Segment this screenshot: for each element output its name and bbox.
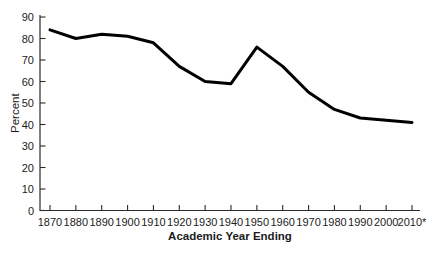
x-tick-label: 1950	[245, 216, 269, 228]
y-tick-label: 40	[22, 119, 34, 131]
x-tick-label: 1980	[322, 216, 346, 228]
data-line	[50, 30, 412, 123]
x-axis-title: Academic Year Ending	[44, 230, 416, 242]
y-tick-label: 90	[22, 11, 34, 23]
x-tick-label: 1880	[64, 216, 88, 228]
y-tick-label: 0	[28, 205, 34, 217]
x-tick-label: 1930	[193, 216, 217, 228]
y-tick-label: 10	[22, 183, 34, 195]
y-tick-label: 50	[22, 97, 34, 109]
x-tick-label: 1900	[115, 216, 139, 228]
plot-area: 0102030405060708090187018801890190019101…	[0, 0, 428, 254]
y-axis-title: Percent	[9, 93, 21, 133]
x-tick-label: 1960	[270, 216, 294, 228]
x-tick-label: 1970	[296, 216, 320, 228]
x-tick-label: 1890	[89, 216, 113, 228]
y-tick-label: 30	[22, 140, 34, 152]
x-tick-label: 1870	[38, 216, 62, 228]
y-tick-label: 20	[22, 162, 34, 174]
axis-lines	[40, 15, 420, 211]
x-tick-label: 1940	[219, 216, 243, 228]
x-tick-label: 1920	[167, 216, 191, 228]
y-tick-label: 80	[22, 33, 34, 45]
line-chart-figure: 0102030405060708090187018801890190019101…	[0, 0, 428, 254]
x-tick-label: 1910	[141, 216, 165, 228]
y-tick-label: 60	[22, 76, 34, 88]
y-tick-label: 70	[22, 54, 34, 66]
x-tick-label: 2010*	[398, 216, 427, 228]
x-tick-label: 1990	[348, 216, 372, 228]
x-tick-label: 2000	[374, 216, 398, 228]
